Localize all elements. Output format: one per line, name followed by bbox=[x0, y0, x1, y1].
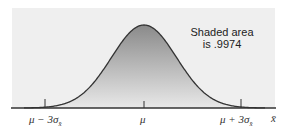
tick-label-left: μ − 3σx̄ bbox=[29, 113, 61, 128]
normal-curve-figure bbox=[0, 0, 287, 131]
x-axis-label: x̄ bbox=[271, 112, 276, 124]
tick-label-right: μ + 3σx̄ bbox=[220, 113, 252, 128]
annotation-line-1: Shaded area bbox=[186, 26, 258, 38]
tick-label-center: μ bbox=[140, 113, 146, 125]
shaded-area-annotation: Shaded area is .9974 bbox=[186, 26, 258, 50]
annotation-line-2: is .9974 bbox=[186, 38, 258, 50]
